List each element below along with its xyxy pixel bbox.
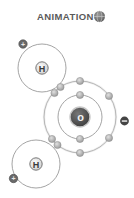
electron [76, 91, 83, 98]
globe-icon[interactable] [94, 11, 105, 22]
svg-text:+: + [11, 175, 15, 182]
hydrogen-symbol-top: H [39, 64, 46, 74]
plus-charge-icon-top: + [19, 40, 27, 48]
oxygen-symbol: o [77, 111, 84, 123]
electron [48, 135, 55, 142]
electron [105, 134, 112, 141]
minus-charge-icon [120, 117, 129, 126]
hydrogen-symbol-bottom: H [33, 160, 40, 170]
electron [51, 89, 58, 96]
electron [105, 92, 112, 99]
electron [57, 83, 64, 90]
hydrogen-atom-bottom: H [12, 140, 60, 188]
electron [76, 77, 83, 84]
plus-charge-icon-bottom: + [9, 174, 17, 182]
water-molecule-diagram: H + H + o [0, 0, 134, 198]
electron [76, 135, 83, 142]
electron [76, 149, 83, 156]
svg-text:+: + [21, 41, 25, 48]
electron [54, 141, 61, 148]
